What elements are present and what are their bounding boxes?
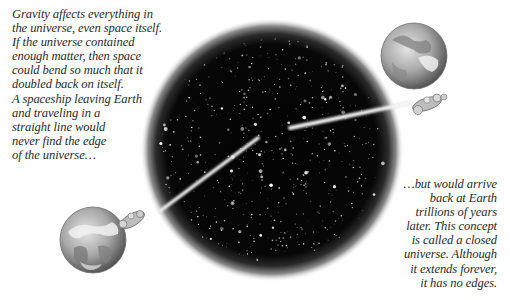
caption-line: enough matter, then space bbox=[12, 49, 162, 63]
caption-left: Gravity affects everything in the univer… bbox=[12, 7, 162, 162]
earth-arrival-icon bbox=[381, 23, 447, 89]
caption-line: it extends forever, bbox=[404, 262, 497, 276]
caption-line: universe. Although bbox=[404, 247, 497, 261]
caption-line: could bend so much that it bbox=[12, 63, 162, 77]
caption-line: doubled back on itself. bbox=[12, 77, 162, 91]
starfield-sphere-icon bbox=[140, 18, 404, 282]
caption-line: is called a closed bbox=[404, 233, 497, 247]
caption-line: back at Earth bbox=[404, 191, 497, 205]
caption-line: Gravity affects everything in bbox=[12, 7, 162, 21]
caption-line: it has no edges. bbox=[404, 276, 497, 290]
caption-line: and traveling in a bbox=[12, 106, 162, 120]
spaceship-arrival-icon bbox=[411, 94, 447, 115]
caption-line: straight line would bbox=[12, 120, 162, 134]
earth-departure-icon bbox=[60, 207, 126, 273]
caption-line: …but would arrive bbox=[404, 177, 497, 191]
caption-line: later. This concept bbox=[404, 219, 497, 233]
caption-line: If the universe contained bbox=[12, 35, 162, 49]
spaceship-departure-icon bbox=[117, 208, 147, 232]
caption-line: never find the edge bbox=[12, 134, 162, 148]
caption-right: …but would arrive back at Earth trillion… bbox=[404, 177, 497, 290]
caption-line: trillions of years bbox=[404, 205, 497, 219]
caption-line: A spaceship leaving Earth bbox=[12, 92, 162, 106]
caption-line: the universe, even space itself. bbox=[12, 21, 162, 35]
caption-line: of the universe… bbox=[12, 148, 162, 162]
